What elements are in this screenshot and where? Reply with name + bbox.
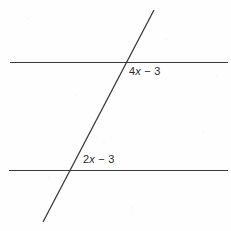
- upper-angle-operator: −: [141, 65, 154, 77]
- lower-angle-label: 2x − 3: [83, 153, 115, 165]
- geometry-figure: 4x − 3 2x − 3: [0, 0, 231, 231]
- geometry-canvas: [0, 0, 231, 231]
- transversal-line: [43, 10, 154, 222]
- upper-angle-constant: 3: [154, 65, 160, 77]
- upper-angle-label: 4x − 3: [129, 65, 161, 77]
- lower-angle-constant: 3: [108, 153, 114, 165]
- lower-angle-operator: −: [95, 153, 108, 165]
